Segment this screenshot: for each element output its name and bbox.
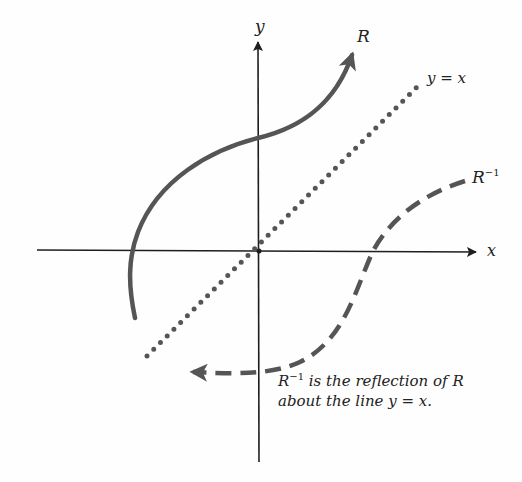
y-axis-label: y — [255, 16, 265, 36]
diagram-canvas: y x R y = x R−1 R−1 is the reflection of… — [0, 0, 522, 482]
curve-R — [130, 55, 352, 318]
curve-R-inverse-label-base: R — [472, 167, 485, 187]
curve-R-inverse-label: R−1 — [472, 167, 500, 187]
caption-line-1-rest: is the reflection of R — [304, 372, 464, 390]
caption: R−1 is the reflection of R about the lin… — [278, 367, 464, 411]
curve-R-inverse — [193, 181, 465, 373]
line-y-equals-x-label: y = x — [427, 69, 466, 87]
caption-r-base: R — [278, 372, 289, 390]
line-y-equals-x — [147, 84, 420, 356]
x-axis-label: x — [487, 241, 496, 260]
origin-point — [257, 249, 262, 254]
caption-line-2: about the line y = x. — [278, 391, 464, 411]
caption-r-sup: −1 — [289, 371, 304, 382]
curve-R-inverse-label-sup: −1 — [485, 167, 500, 178]
curve-R-label: R — [357, 26, 370, 46]
caption-line-1: R−1 is the reflection of R — [278, 367, 464, 391]
